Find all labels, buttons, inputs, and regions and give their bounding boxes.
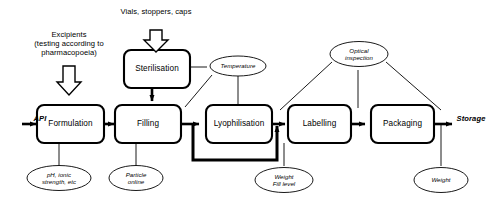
ellipse-ph-ionic — [27, 166, 91, 191]
ellipse-weight-fill-level — [255, 168, 313, 193]
flowchart-vector-layer — [0, 0, 490, 203]
hollow-arrow-vials — [144, 30, 168, 52]
ellipse-weight — [414, 168, 468, 193]
flowchart-canvas: API Excipients (testing according to pha… — [0, 0, 490, 203]
connector-optical-lyophilisation — [280, 62, 332, 110]
box-sterilisation — [124, 50, 190, 88]
box-lyophilisation — [206, 105, 272, 143]
box-packaging — [371, 105, 434, 143]
box-labelling — [288, 105, 351, 143]
connector-optical-packaging — [386, 62, 441, 110]
hollow-arrow-excipients — [57, 66, 81, 95]
ellipse-optical-inspection — [330, 42, 388, 67]
ellipse-temperature — [210, 56, 266, 76]
box-filling — [115, 105, 181, 143]
box-formulation — [37, 105, 104, 143]
ellipse-particle-online — [109, 166, 163, 191]
